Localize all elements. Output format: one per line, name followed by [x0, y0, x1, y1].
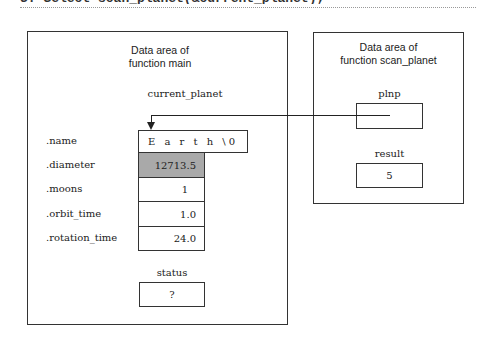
field-label-rotation-time: .rotation_time	[46, 232, 117, 243]
field-label-diameter: .diameter	[46, 159, 95, 170]
main-title-line2: function main	[80, 57, 240, 70]
result-cell: 5	[356, 163, 423, 188]
pointer-arrowhead-icon	[147, 122, 155, 130]
main-title-line1: Data area of	[80, 44, 240, 57]
field-cell-diameter: 12713.5	[138, 152, 205, 178]
field-label-name: .name	[46, 135, 77, 146]
main-data-area-title: Data area of function main	[80, 44, 240, 70]
result-label: result	[356, 148, 423, 159]
field-cell-rotation-time: 24.0	[138, 226, 205, 251]
pointer-line-horizontal	[151, 115, 390, 116]
field-cell-name: E a r t h \0	[138, 130, 248, 153]
field-label-orbit-time: .orbit_time	[46, 208, 101, 219]
field-cell-moons: 1	[138, 177, 205, 202]
field-label-moons: .moons	[46, 183, 82, 194]
clipped-header-text: 3. Select scan_planet(&current_planet);	[0, 0, 488, 4]
plnp-cell	[356, 103, 423, 129]
field-cell-orbit-time: 1.0	[138, 201, 205, 227]
current-planet-label: current_planet	[120, 88, 250, 99]
scan-planet-data-area-title: Data area of function scan_planet	[313, 41, 464, 67]
status-cell: ?	[139, 282, 205, 307]
scan-title-line2: function scan_planet	[313, 54, 464, 67]
plnp-label: plnp	[356, 88, 423, 99]
status-label: status	[139, 267, 205, 278]
dotted-divider	[20, 7, 476, 8]
field-value-name: E a r t h \0	[148, 136, 238, 147]
scan-title-line1: Data area of	[313, 41, 464, 54]
